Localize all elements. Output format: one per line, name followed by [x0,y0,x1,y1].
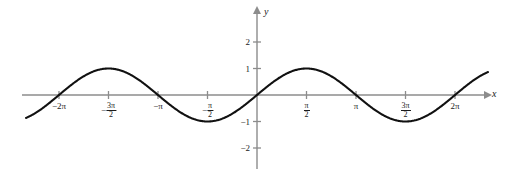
sine-function-chart: −2π−3π2−π−π2π2π3π22π 21−1−2 x y [0,0,509,177]
chart-plot-area [0,0,509,177]
x-tick-label: π [354,102,359,111]
x-axis-arrowhead [484,91,492,99]
x-tick-label: 3π2 [400,102,410,120]
tick-fraction: 3π2 [400,102,410,120]
fraction-denominator: 2 [303,111,309,119]
x-axis-label: x [492,89,496,99]
x-tick-label: −2π [52,102,66,111]
y-tick-label: −1 [240,117,250,126]
fraction-denominator: 2 [106,111,116,119]
x-tick-label: 2π [450,102,459,111]
axes-group [22,6,492,169]
y-tick-label: 2 [246,38,251,47]
y-tick-label: −2 [240,144,250,153]
y-tick-label: 1 [246,64,251,73]
x-tick-label: −3π2 [101,102,116,120]
y-axis-label: y [264,7,268,17]
tick-fraction: π2 [207,102,213,120]
tick-fraction: π2 [303,102,309,120]
y-axis-arrowhead [253,6,261,14]
x-tick-label: −π [153,102,163,111]
tick-fraction: 3π2 [106,102,116,120]
x-tick-label: π2 [303,102,309,120]
fraction-denominator: 2 [207,111,213,119]
x-tick-label: −π2 [202,102,213,120]
fraction-denominator: 2 [400,111,410,119]
